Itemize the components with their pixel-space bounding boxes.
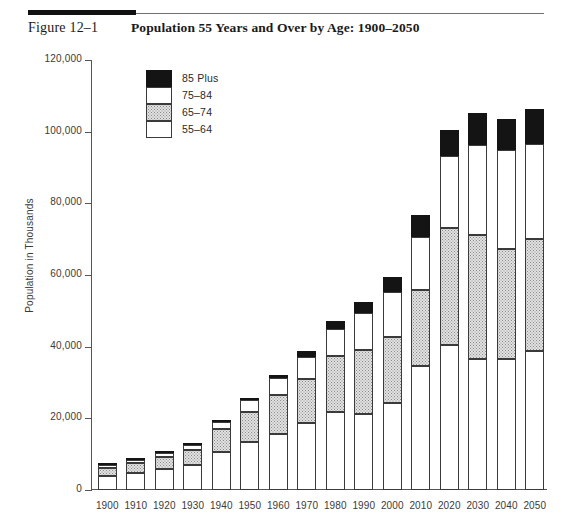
- legend-label: 75–84: [182, 89, 212, 101]
- bar-segment: [155, 453, 174, 457]
- bar-segment: [326, 329, 345, 357]
- y-axis-tick-label: 0: [20, 483, 82, 494]
- legend-label: 55–64: [182, 123, 212, 135]
- bar-segment: [212, 422, 231, 430]
- bar-segment: [240, 398, 259, 400]
- y-axis-tick-label: 20,000: [20, 411, 82, 422]
- y-axis-tick: [85, 490, 92, 491]
- bar-1900[interactable]: 1900: [98, 60, 117, 490]
- bar-segment: [126, 473, 145, 490]
- bar-2050[interactable]: 2050: [525, 60, 544, 490]
- bar-segment: [440, 345, 459, 490]
- bar-segment: [354, 302, 373, 313]
- bar-segment: [440, 228, 459, 345]
- bar-segment: [98, 476, 117, 490]
- bar-segment: [183, 465, 202, 490]
- bar-2030[interactable]: 2030: [468, 60, 487, 490]
- bar-2040[interactable]: 2040: [497, 60, 516, 490]
- bar-segment: [497, 119, 516, 150]
- bar-2020[interactable]: 2020: [440, 60, 459, 490]
- y-axis-tick: [85, 418, 92, 419]
- y-axis-tick: [85, 60, 92, 61]
- y-axis-tick: [85, 132, 92, 133]
- bar-segment: [269, 434, 288, 490]
- legend-item: 75–84: [146, 87, 256, 104]
- bar-segment: [297, 423, 316, 490]
- bar-segment: [212, 420, 231, 422]
- bar-segment: [383, 277, 402, 292]
- bar-segment: [411, 215, 430, 237]
- bar-1960[interactable]: 1960: [269, 60, 288, 490]
- bar-segment: [525, 144, 544, 239]
- bar-segment: [525, 351, 544, 490]
- bar-segment: [297, 351, 316, 356]
- y-axis-tick-label: 100,000: [20, 125, 82, 136]
- y-axis-tick-label: 40,000: [20, 340, 82, 351]
- bar-segment: [240, 412, 259, 442]
- bar-segment: [383, 403, 402, 490]
- legend-swatch: [146, 104, 172, 121]
- bar-segment: [411, 366, 430, 490]
- bar-segment: [297, 379, 316, 424]
- bar-segment: [269, 395, 288, 434]
- chart-legend: 85 Plus75–8465–7455–64: [146, 70, 256, 138]
- x-axis-tick-label: 2050: [513, 500, 557, 511]
- legend-item: 85 Plus: [146, 70, 256, 87]
- bar-segment: [240, 400, 259, 412]
- bar-segment: [269, 375, 288, 378]
- bar-segment: [468, 145, 487, 235]
- bar-segment: [183, 450, 202, 464]
- y-axis-tick: [85, 203, 92, 204]
- bar-2000[interactable]: 2000: [383, 60, 402, 490]
- bar-1910[interactable]: 1910: [126, 60, 145, 490]
- bar-segment: [155, 457, 174, 468]
- bar-segment: [297, 357, 316, 379]
- bar-segment: [411, 290, 430, 367]
- bar-segment: [126, 458, 145, 460]
- y-axis-tick: [85, 275, 92, 276]
- bar-segment: [98, 468, 117, 476]
- bar-segment: [269, 378, 288, 394]
- bar-1970[interactable]: 1970: [297, 60, 316, 490]
- bar-segment: [326, 356, 345, 412]
- legend-swatch: [146, 87, 172, 104]
- chart-plot-area: 020,00040,00060,00080,000100,000120,000 …: [0, 0, 562, 527]
- bar-segment: [98, 465, 117, 468]
- bar-segment: [240, 442, 259, 490]
- legend-label: 65–74: [182, 106, 212, 118]
- legend-label: 85 Plus: [182, 72, 218, 84]
- bar-segment: [525, 109, 544, 143]
- bar-segment: [383, 337, 402, 403]
- bar-segment: [468, 113, 487, 145]
- bar-segment: [525, 239, 544, 352]
- legend-item: 65–74: [146, 104, 256, 121]
- bar-segment: [183, 443, 202, 445]
- bar-segment: [155, 451, 174, 453]
- bar-segment: [183, 445, 202, 450]
- bar-segment: [468, 235, 487, 359]
- bar-segment: [497, 249, 516, 358]
- bar-segment: [440, 130, 459, 156]
- legend-item: 55–64: [146, 121, 256, 138]
- bar-segment: [354, 350, 373, 415]
- bar-segment: [383, 292, 402, 336]
- bar-segment: [212, 429, 231, 452]
- bar-segment: [326, 321, 345, 329]
- legend-swatch: [146, 121, 172, 138]
- bar-segment: [126, 463, 145, 473]
- bar-segment: [497, 150, 516, 249]
- y-axis-title: Population in Thousands: [24, 181, 35, 331]
- y-axis-tick-label: 120,000: [20, 53, 82, 64]
- bar-segment: [354, 414, 373, 490]
- bar-1990[interactable]: 1990: [354, 60, 373, 490]
- bar-1980[interactable]: 1980: [326, 60, 345, 490]
- bar-segment: [411, 237, 430, 290]
- bar-segment: [155, 469, 174, 491]
- bar-segment: [98, 463, 117, 465]
- bar-segment: [497, 359, 516, 491]
- bar-segment: [354, 313, 373, 349]
- y-axis-tick: [85, 347, 92, 348]
- bar-segment: [126, 460, 145, 464]
- bar-segment: [440, 156, 459, 228]
- bar-2010[interactable]: 2010: [411, 60, 430, 490]
